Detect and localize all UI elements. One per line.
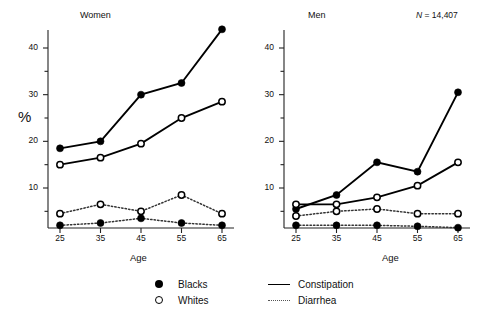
legend-label-whites: Whites: [178, 295, 209, 306]
x-axis-label-women: Age: [130, 252, 147, 263]
y-tick-label: 20: [18, 135, 38, 145]
filled-circle-icon: [148, 276, 170, 292]
solid-line-icon: [268, 276, 290, 292]
x-tick-label: 25: [50, 233, 70, 243]
panel-women: Women % Age 10203040 2535455565: [0, 0, 244, 270]
panel-title-men: Men: [308, 10, 326, 20]
legend: Blacks Whites Constipation Diarrhea: [0, 272, 488, 322]
plot-area-men: [244, 0, 488, 270]
x-tick-label: 55: [172, 233, 192, 243]
y-tick-label: 10: [18, 182, 38, 192]
legend-item-whites: Whites: [148, 292, 209, 308]
y-tick-label: 30: [18, 89, 38, 99]
x-tick-label: 35: [327, 233, 347, 243]
y-axis-label: %: [18, 108, 31, 125]
panel-men: Men N = 14,407 Age 10203040 2535455565: [244, 0, 488, 270]
y-tick-label: 20: [254, 135, 274, 145]
panel-title-women: Women: [80, 10, 111, 20]
legend-label-constipation: Constipation: [298, 279, 354, 290]
sample-size-annotation: N = 14,407: [416, 10, 458, 20]
sample-size-value: = 14,407: [422, 10, 458, 20]
x-tick-label: 65: [212, 233, 232, 243]
x-tick-label: 25: [286, 233, 306, 243]
x-tick-label: 55: [408, 233, 428, 243]
y-tick-label: 40: [254, 42, 274, 52]
x-axis-label-men: Age: [382, 252, 399, 263]
x-tick-label: 45: [367, 233, 387, 243]
y-tick-label: 30: [254, 89, 274, 99]
figure-root: Women % Age 10203040 2535455565 Men N = …: [0, 0, 488, 323]
legend-item-blacks: Blacks: [148, 276, 207, 292]
legend-item-diarrhea: Diarrhea: [268, 292, 336, 308]
y-tick-label: 40: [18, 42, 38, 52]
x-tick-label: 35: [91, 233, 111, 243]
panels-container: Women % Age 10203040 2535455565 Men N = …: [0, 0, 488, 270]
x-tick-label: 65: [448, 233, 468, 243]
legend-label-blacks: Blacks: [178, 279, 207, 290]
x-tick-label: 45: [131, 233, 151, 243]
dotted-line-icon: [268, 292, 290, 308]
y-tick-label: 10: [254, 182, 274, 192]
legend-item-constipation: Constipation: [268, 276, 354, 292]
open-circle-icon: [148, 292, 170, 308]
legend-label-diarrhea: Diarrhea: [298, 295, 336, 306]
